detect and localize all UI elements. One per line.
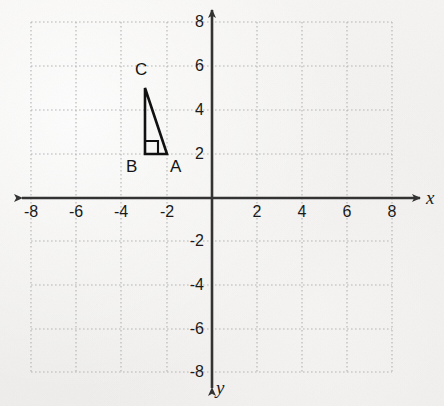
x-tick-6: 6 [335, 203, 359, 221]
y-tick--8: -8 [176, 363, 204, 381]
y-axis-label: y [216, 377, 224, 399]
x-tick--6: -6 [64, 203, 88, 221]
y-tick-4: 4 [180, 101, 204, 119]
x-tick-4: 4 [290, 203, 314, 221]
y-tick--4: -4 [176, 276, 204, 294]
x-tick-2: 2 [245, 203, 269, 221]
x-tick-8: 8 [380, 203, 404, 221]
y-tick-6: 6 [180, 57, 204, 75]
triangle-abc [145, 88, 167, 154]
x-axis-label: x [426, 187, 434, 209]
vertex-label-c: C [135, 60, 147, 80]
right-angle-marker [145, 141, 158, 154]
y-tick--2: -2 [176, 232, 204, 250]
y-tick--6: -6 [176, 320, 204, 338]
y-tick-8: 8 [180, 13, 204, 31]
vertex-label-a: A [170, 157, 181, 177]
vertex-label-b: B [126, 157, 137, 177]
y-tick-2: 2 [180, 145, 204, 163]
x-tick--8: -8 [19, 203, 43, 221]
x-tick--4: -4 [109, 203, 133, 221]
x-tick--2: -2 [155, 203, 179, 221]
